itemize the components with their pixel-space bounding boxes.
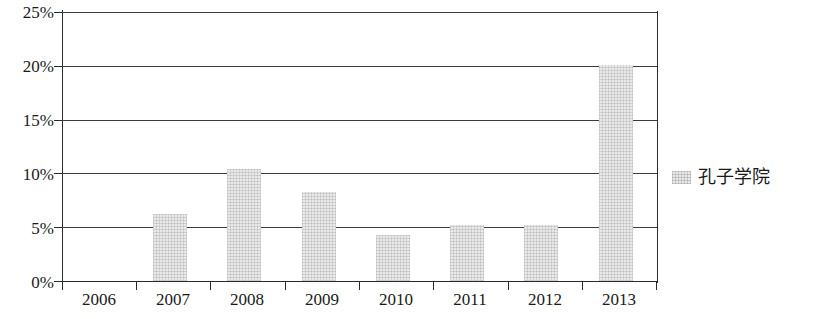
bar-2013[interactable]	[599, 65, 633, 281]
x-tick-label-2013: 2013	[582, 290, 656, 310]
y-tick-mark-0	[54, 281, 62, 282]
x-tick-label-2010: 2010	[359, 290, 433, 310]
y-tick-mark-20	[54, 66, 62, 67]
legend-entry-label: 孔子学院	[698, 168, 770, 186]
bar-2008[interactable]	[227, 169, 261, 281]
x-axis-labels: 2006 2007 2008 2009 2010 2011 2012 2013	[62, 290, 657, 319]
x-tick-mark-3	[285, 281, 286, 290]
bar-2011[interactable]	[450, 225, 484, 281]
x-tick-mark-2	[210, 281, 211, 290]
y-tick-mark-10	[54, 173, 62, 174]
x-tick-mark-4	[359, 281, 360, 290]
x-tick-mark-6	[508, 281, 509, 290]
bar-chart: 25% 20% 15% 10% 5% 0%	[0, 0, 813, 319]
x-tick-label-2006: 2006	[62, 290, 136, 310]
x-tick-label-2007: 2007	[136, 290, 210, 310]
y-tick-label-25: 25%	[2, 4, 54, 21]
bar-2007[interactable]	[153, 214, 187, 281]
y-tick-mark-5	[54, 227, 62, 228]
bar-2010[interactable]	[376, 235, 410, 281]
plot-right-frame-line	[657, 11, 658, 283]
y-tick-label-10: 10%	[2, 166, 54, 183]
x-tick-mark-7	[582, 281, 583, 290]
bars-layer	[62, 12, 657, 281]
y-axis-labels: 25% 20% 15% 10% 5% 0%	[0, 0, 54, 319]
x-tick-mark-8	[656, 281, 657, 290]
legend: 孔子学院	[672, 168, 770, 186]
x-tick-mark-0	[62, 281, 63, 290]
bar-2009[interactable]	[302, 192, 336, 281]
y-tick-label-15: 15%	[2, 112, 54, 129]
y-tick-label-20: 20%	[2, 58, 54, 75]
y-tick-label-0: 0%	[2, 274, 54, 291]
x-tick-label-2009: 2009	[285, 290, 359, 310]
y-tick-mark-25	[54, 12, 62, 13]
x-tick-mark-1	[136, 281, 137, 290]
x-tick-label-2012: 2012	[508, 290, 582, 310]
bar-2012[interactable]	[524, 225, 558, 281]
y-tick-mark-15	[54, 120, 62, 121]
y-tick-label-5: 5%	[2, 220, 54, 237]
x-tick-label-2008: 2008	[210, 290, 284, 310]
x-tick-mark-5	[433, 281, 434, 290]
legend-swatch-icon	[672, 171, 691, 184]
x-tick-label-2011: 2011	[433, 290, 507, 310]
